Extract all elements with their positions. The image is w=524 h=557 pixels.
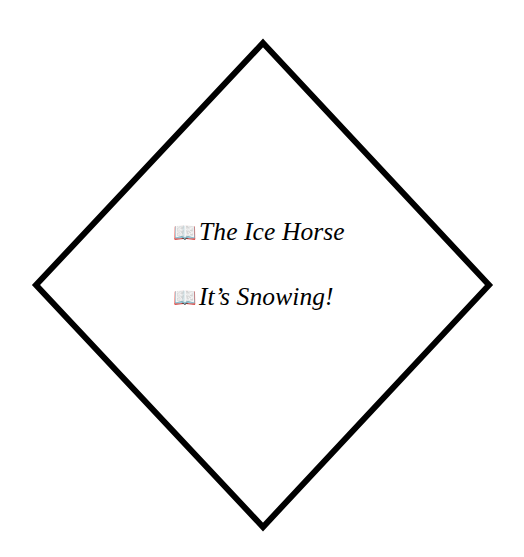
open-book-icon: 📖 — [173, 223, 199, 242]
list-item[interactable]: 📖 The Ice Horse — [173, 219, 473, 284]
list-item[interactable]: 📖 It’s Snowing! — [173, 284, 473, 349]
list-item-label: The Ice Horse — [199, 219, 345, 245]
book-list: 📖 The Ice Horse 📖 It’s Snowing! — [173, 219, 473, 349]
diamond-canvas: 📖 The Ice Horse 📖 It’s Snowing! — [0, 0, 524, 557]
list-item-label: It’s Snowing! — [199, 284, 334, 310]
open-book-icon: 📖 — [173, 288, 199, 307]
